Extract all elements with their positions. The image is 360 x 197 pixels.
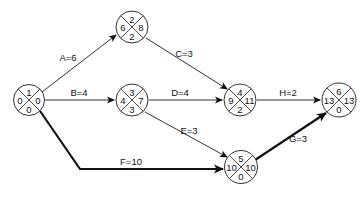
node-6-left: 13 [324, 95, 335, 106]
network-diagram: A=6 B=4 C=3 D=4 E=3 F=10 H=2 G=3 1 0 0 0 [0, 0, 360, 197]
node-6-right: 13 [344, 95, 355, 106]
node-2: 2 6 8 2 [116, 11, 148, 43]
node-3-right: 7 [138, 95, 143, 106]
node-3-bottom: 3 [129, 104, 134, 115]
node-2-top: 2 [129, 14, 134, 25]
node-4-top: 4 [237, 87, 242, 98]
edge-D: D=4 [149, 87, 222, 101]
edge-label-H: H=2 [279, 87, 297, 98]
node-4-right: 11 [245, 95, 255, 106]
edge-H: H=2 [257, 87, 320, 101]
node-3: 3 4 7 3 [116, 84, 148, 116]
node-5-right: 10 [245, 162, 256, 173]
node-2-bottom: 2 [129, 31, 134, 42]
edge-G: G=3 [255, 113, 326, 160]
node-5-bottom: 0 [238, 171, 243, 182]
node-5-left: 10 [226, 162, 237, 173]
edge-C: C=3 [146, 38, 227, 89]
node-4: 4 9 11 2 [224, 84, 256, 116]
node-1: 1 0 0 0 [14, 85, 45, 116]
node-3-top: 3 [129, 87, 134, 98]
node-6-top: 6 [336, 86, 341, 97]
node-6: 6 13 13 0 [322, 83, 356, 117]
edge-E: E=3 [145, 112, 227, 157]
node-2-left: 6 [120, 22, 125, 33]
node-4-bottom: 2 [237, 104, 242, 115]
node-2-right: 8 [138, 22, 143, 33]
edge-label-B: B=4 [70, 87, 87, 98]
node-3-left: 4 [120, 95, 125, 106]
edge-label-F: F=10 [120, 156, 142, 167]
edge-label-E: E=3 [180, 125, 197, 136]
edge-B: B=4 [45, 87, 114, 101]
node-6-bottom: 0 [336, 104, 341, 115]
edge-label-G: G=3 [289, 133, 307, 144]
edge-label-D: D=4 [171, 87, 189, 98]
edge-A: A=6 [42, 35, 116, 92]
edge-label-C: C=3 [175, 48, 193, 59]
node-1-left: 0 [17, 95, 22, 106]
edge-label-A: A=6 [59, 52, 76, 63]
node-1-right: 0 [35, 95, 40, 106]
node-1-bottom: 0 [26, 104, 31, 115]
node-5-top: 5 [238, 153, 243, 164]
node-1-top: 1 [26, 87, 31, 98]
node-5: 5 10 10 0 [225, 151, 258, 184]
node-4-left: 9 [228, 95, 233, 106]
